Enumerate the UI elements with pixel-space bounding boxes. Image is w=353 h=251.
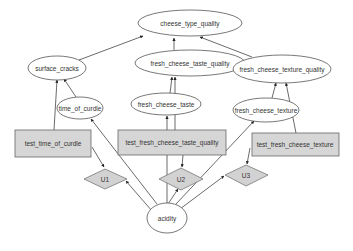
node-fresh-cheese-taste-quality[interactable]: fresh_cheese_taste_quality xyxy=(135,50,245,76)
node-label: surface_cracks xyxy=(35,65,79,73)
node-fresh-cheese-texture-quality[interactable]: fresh_cheese_texture_quality xyxy=(233,55,331,83)
edge-test-taste-quality-to-u2 xyxy=(182,155,183,167)
node-acidity[interactable]: acidity xyxy=(147,203,187,233)
edge-fresh-cheese-texture-to-texture-quality xyxy=(272,83,276,98)
node-label: acidity xyxy=(158,215,177,223)
edge-fresh-cheese-taste-to-taste-quality xyxy=(170,77,172,93)
edge-time-of-curdle-to-surface-cracks xyxy=(64,79,76,97)
node-fresh-cheese-taste[interactable]: fresh_cheese_taste xyxy=(131,93,201,115)
node-u1[interactable]: U1 xyxy=(84,169,127,189)
node-label: cheese_type_quality xyxy=(160,20,220,28)
edge-surface-cracks-to-cheese-type-quality xyxy=(79,36,143,60)
node-label: U1 xyxy=(101,176,110,183)
node-test-fresh-cheese-texture[interactable]: test_fresh_cheese_texture xyxy=(252,133,339,156)
node-surface-cracks[interactable]: surface_cracks xyxy=(28,56,86,80)
node-label: fresh_cheese_taste_quality xyxy=(150,60,230,68)
node-label: fresh_cheese_texture xyxy=(235,107,298,115)
node-test-fresh-cheese-taste-quality[interactable]: test_fresh_cheese_taste_quality xyxy=(118,130,226,155)
node-label: fresh_cheese_texture_quality xyxy=(240,66,326,74)
node-label: time_of_curdle xyxy=(59,105,102,113)
node-label: test_fresh_cheese_texture xyxy=(257,141,334,149)
node-cheese-type-quality[interactable]: cheese_type_quality xyxy=(138,10,242,36)
node-fresh-cheese-texture[interactable]: fresh_cheese_texture xyxy=(233,98,299,122)
node-label: U2 xyxy=(177,176,186,183)
node-label: fresh_cheese_taste xyxy=(138,101,195,109)
node-u3[interactable]: U3 xyxy=(225,165,268,186)
node-label: test_time_of_curdle xyxy=(25,140,82,148)
edge-test-texture-to-u3 xyxy=(247,148,250,164)
node-u2[interactable]: U2 xyxy=(159,168,203,190)
node-time-of-curdle[interactable]: time_of_curdle xyxy=(57,97,103,119)
node-label: U3 xyxy=(242,172,251,179)
edge-test-time-of-curdle-to-u1 xyxy=(92,147,104,167)
edge-acidity-to-u2 xyxy=(168,189,178,204)
node-test-time-of-curdle[interactable]: test_time_of_curdle xyxy=(15,130,91,157)
influence-diagram: cheese_type_quality surface_cracks fresh… xyxy=(0,0,353,251)
node-label: test_fresh_cheese_taste_quality xyxy=(125,139,219,147)
edge-acidity-to-u1 xyxy=(126,181,152,211)
edge-test-time-of-curdle-to-surface-cracks xyxy=(54,80,57,130)
